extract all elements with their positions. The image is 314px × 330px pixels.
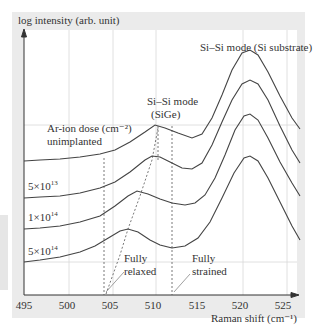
x-tick-labels: 495 500 505 510 515 520 525: [16, 299, 292, 311]
fully-strained-label-1: Fully: [192, 252, 216, 264]
x-axis-arrow-icon: [291, 293, 299, 298]
svg-text:525: 525: [275, 299, 292, 311]
label-unimplanted: unimplanted: [47, 135, 102, 147]
fully-relaxed-label-1: Fully: [124, 252, 148, 264]
svg-text:510: 510: [145, 299, 162, 311]
x-axis-title: Raman shift (cm⁻¹): [211, 312, 297, 325]
raman-chart: 495 500 505 510 515 520 525 log intensit…: [0, 0, 314, 330]
svg-text:505: 505: [102, 299, 119, 311]
fully-relaxed-label-2: relaxed: [124, 265, 157, 277]
legend-title: Ar-ion dose (cm⁻²): [47, 122, 132, 135]
fully-strained-label-2: strained: [192, 265, 227, 277]
y-axis-title: log intensity (arb. unit): [18, 14, 120, 27]
svg-text:515: 515: [189, 299, 206, 311]
svg-text:495: 495: [16, 299, 33, 311]
sige-mode-label-2: (SiGe): [151, 108, 181, 121]
svg-text:500: 500: [59, 299, 76, 311]
svg-text:520: 520: [232, 299, 249, 311]
si-substrate-label: Si–Si mode (Si substrate): [200, 41, 312, 54]
sige-mode-label-1: Si–Si mode: [147, 95, 198, 107]
